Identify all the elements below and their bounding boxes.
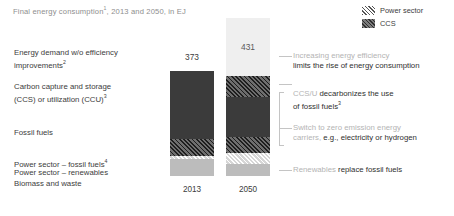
label-energy-demand-line1: Energy demand w/o efficiency [14,48,118,58]
bracket-fossil-switch [279,92,284,146]
x-tick-2050: 2050 [226,185,270,194]
annotation-switch: Switch to zero emission energy carriers,… [293,123,417,143]
chart-title-rest: , 2013 and 2050, in EJ [107,7,186,16]
segment-2013-power-fossil [170,139,214,156]
annotation-efficiency-line2: limits the rise of energy consumption [293,61,420,71]
segment-2050-fossil-fuels [226,97,270,137]
chart-title: Final energy consumption1, 2013 and 2050… [13,5,186,16]
legend-item-ccs: CCS [362,18,454,29]
label-power-sector-renewables-text: Power sector – renewables [14,168,108,177]
x-tick-2013: 2013 [170,185,214,194]
annotation-switch-line1: Switch to zero emission energy [293,123,417,133]
label-biomass-waste-text: Biomass and waste [14,179,82,188]
segment-2050-energy-demand: 431 [226,18,270,76]
annotation-switch-line2: carriers, e.g., electricity or hydrogen [293,133,417,143]
chart-title-main: Final energy consumption [13,7,104,16]
plot-area: 373 2013 640 431 2050 [168,18,278,198]
crosshatched-swatch-icon [362,19,375,28]
segment-2013-biomass [170,159,214,176]
bar-total-2013: 373 [170,52,214,62]
label-ccs-ccu-line2: (CCS) or utilization (CCU)3 [14,92,111,104]
segment-2050-power-fossil [226,137,270,153]
leader-line-renewables [279,170,292,171]
bar-2050: 431 [226,18,270,176]
label-biomass-waste: Biomass and waste [14,179,82,189]
label-energy-demand-line2: improvements2 [14,58,118,70]
segment-2050-biomass [226,164,270,176]
leader-line-ccs [279,84,292,85]
leader-line-switch [279,128,292,129]
label-ccs-ccu: Carbon capture and storage (CCS) or util… [14,82,111,104]
annotation-renewables-line1: Renewables replace fossil fuels [293,165,402,175]
annotation-efficiency-line1: Increasing energy efficiency [293,51,420,61]
legend-label-power-sector: Power sector [380,6,423,15]
annotation-ccs: CCS/U decarbonizes the use of fossil fue… [293,89,394,111]
annotation-ccs-line2: of fossil fuels3 [293,99,394,111]
annotation-efficiency: Increasing energy efficiency limits the … [293,51,420,71]
label-fossil-fuels: Fossil fuels [14,128,53,138]
label-power-sector-renewables: Power sector – renewables [14,168,108,178]
annotation-renewables: Renewables replace fossil fuels [293,165,402,175]
segment-value-431: 431 [226,42,270,52]
chart-container: Final energy consumption1, 2013 and 2050… [0,0,454,216]
hatched-swatch-icon [362,6,375,15]
bar-2013 [170,71,214,176]
label-fossil-fuels-text: Fossil fuels [14,128,53,138]
segment-2013-fossil-fuels [170,71,214,139]
segment-2050-ccs [226,76,270,97]
annotation-ccs-line1: CCS/U decarbonizes the use [293,89,394,99]
legend: Power sector CCS [362,5,454,31]
label-ccs-ccu-line1: Carbon capture and storage [14,82,111,92]
leader-line-efficiency [279,56,292,57]
segment-2050-power-renewables [226,153,270,164]
label-energy-demand: Energy demand w/o efficiency improvement… [14,48,118,70]
legend-item-power-sector: Power sector [362,5,454,16]
legend-label-ccs: CCS [380,19,396,28]
